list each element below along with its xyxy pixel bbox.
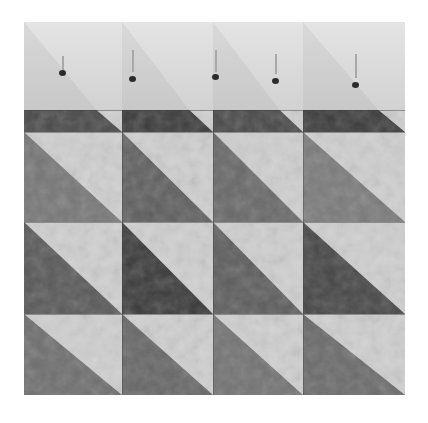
quilt-block xyxy=(122,132,213,222)
fabric-shadow xyxy=(303,22,405,110)
seam-horizontal xyxy=(24,132,405,133)
pin xyxy=(355,54,357,78)
seam-vertical xyxy=(122,110,123,395)
quilt-block xyxy=(213,110,303,132)
seam-horizontal xyxy=(24,110,405,111)
pin xyxy=(215,50,217,72)
seam-vertical xyxy=(303,110,304,395)
seam-vertical xyxy=(213,110,214,395)
pin-head-icon xyxy=(59,70,66,76)
pin xyxy=(132,50,134,72)
seam-horizontal xyxy=(24,222,405,223)
fabric-shadow xyxy=(24,22,122,110)
pin-head-icon xyxy=(129,76,136,82)
quilt-block xyxy=(24,132,122,222)
quilt-block xyxy=(122,314,213,395)
quilt-block xyxy=(213,132,303,222)
quilt-block xyxy=(122,222,213,314)
pin-head-icon xyxy=(212,74,219,80)
quilt-block xyxy=(24,314,122,395)
quilt-block xyxy=(213,222,303,314)
pin-head-icon xyxy=(272,78,279,84)
quilt-block xyxy=(303,222,405,314)
quilt-block xyxy=(122,110,213,132)
quilt-block xyxy=(303,314,405,395)
quilt xyxy=(24,22,405,395)
quilt-block xyxy=(24,110,122,132)
quilt-block xyxy=(213,314,303,395)
quilt-block xyxy=(303,110,405,132)
fabric-shadow xyxy=(122,22,213,110)
fabric-shadow xyxy=(213,22,303,110)
quilt-block xyxy=(24,222,122,314)
pin-head-icon xyxy=(352,82,359,88)
quilt-block xyxy=(303,132,405,222)
seam-horizontal xyxy=(24,314,405,315)
pin xyxy=(275,54,277,74)
